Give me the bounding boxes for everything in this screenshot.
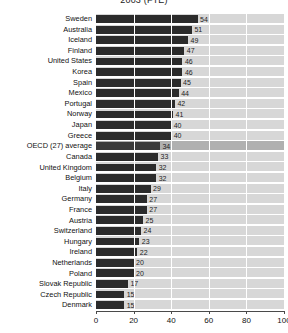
bar-row: 27 (96, 194, 284, 205)
category-label: Germany (0, 194, 92, 205)
category-label: Czech Republic (0, 290, 92, 301)
category-label: Norway (0, 109, 92, 120)
category-label: Japan (0, 120, 92, 131)
tick-mark (134, 311, 135, 314)
category-label: Hungary (0, 237, 92, 248)
tick-label: 0 (94, 316, 98, 325)
category-label: Spain (0, 78, 92, 89)
category-label: Poland (0, 269, 92, 280)
bar-row: 40 (96, 120, 284, 131)
bar-row: 46 (96, 56, 284, 67)
category-label: Sweden (0, 14, 92, 25)
tick-label: 60 (204, 316, 213, 325)
category-label: Finland (0, 46, 92, 57)
bar-row: 27 (96, 205, 284, 216)
tick-mark (171, 311, 172, 314)
bar-row: 29 (96, 184, 284, 195)
bar-row: 51 (96, 25, 284, 36)
bar-row: 17 (96, 279, 284, 290)
bar-row: 23 (96, 236, 284, 247)
tick-mark (96, 311, 97, 314)
category-label: Portugal (0, 99, 92, 110)
chart-title: 2003 (FTE) (0, 0, 288, 5)
bar-row: 34 (96, 141, 284, 152)
tick-mark (209, 311, 210, 314)
bar-row: 46 (96, 67, 284, 78)
bar-row: 40 (96, 131, 284, 142)
bar-row: 32 (96, 173, 284, 184)
category-label: Ireland (0, 247, 92, 258)
tick-label: 100 (277, 316, 288, 325)
category-label: Canada (0, 152, 92, 163)
category-label: United States (0, 56, 92, 67)
tick-mark (246, 311, 247, 314)
bar-row: 42 (96, 99, 284, 110)
bar-row: 25 (96, 215, 284, 226)
bar-row: 54 (96, 14, 284, 25)
category-label: Greece (0, 131, 92, 142)
tick-label: 80 (242, 316, 251, 325)
plot-area: 5451494746464544424140403433323229272725… (96, 14, 284, 311)
bar-row: 32 (96, 162, 284, 173)
bar-row: 15 (96, 300, 284, 311)
category-label: Austria (0, 216, 92, 227)
category-label: Denmark (0, 300, 92, 311)
gridline (284, 14, 285, 311)
category-label: OECD (27) average (0, 141, 92, 152)
category-label: Switzerland (0, 226, 92, 237)
category-label: Italy (0, 184, 92, 195)
category-label: Iceland (0, 35, 92, 46)
bar-row: 41 (96, 109, 284, 120)
bar-rows: 5451494746464544424140403433323229272725… (96, 14, 284, 311)
bar-row: 24 (96, 226, 284, 237)
category-label: France (0, 205, 92, 216)
bar-row: 45 (96, 78, 284, 89)
chart-figure: 2003 (FTE) SwedenAustraliaIcelandFinland… (0, 0, 288, 333)
bar-row: 33 (96, 152, 284, 163)
category-label: Slovak Republic (0, 279, 92, 290)
tick-label: 40 (167, 316, 176, 325)
category-label: United Kingdom (0, 163, 92, 174)
bar-row: 20 (96, 268, 284, 279)
category-label: Netherlands (0, 258, 92, 269)
bar-row: 49 (96, 35, 284, 46)
category-label: Belgium (0, 173, 92, 184)
bar-row: 44 (96, 88, 284, 99)
bar-row: 15 (96, 289, 284, 300)
category-label: Korea (0, 67, 92, 78)
tick-label: 20 (129, 316, 138, 325)
category-label: Mexico (0, 88, 92, 99)
x-axis-line (96, 311, 284, 312)
tick-mark (284, 311, 285, 314)
bar-row: 22 (96, 247, 284, 258)
bar-row: 47 (96, 46, 284, 57)
category-label: Australia (0, 25, 92, 36)
category-axis-labels: SwedenAustraliaIcelandFinlandUnited Stat… (0, 14, 92, 311)
bar-row: 20 (96, 258, 284, 269)
